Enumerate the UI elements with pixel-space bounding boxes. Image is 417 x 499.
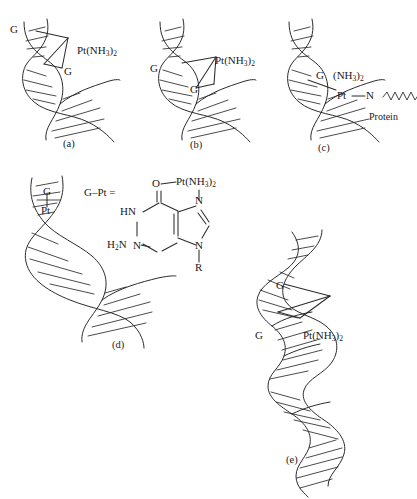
panel-b-g-label-upper: G bbox=[150, 63, 158, 74]
n9-nitrogen-label: N bbox=[195, 240, 203, 251]
n3-nitrogen-label: N bbox=[133, 240, 141, 251]
panel-c-ammine-label: (NH3)2 bbox=[333, 70, 364, 83]
panel-c-platinum-label: Pt bbox=[337, 90, 346, 101]
panel-d-g-label: G bbox=[43, 186, 51, 197]
panel-c-nitrogen-label: N bbox=[366, 90, 374, 101]
panel-e-helix bbox=[257, 230, 345, 497]
n7-nitrogen-label: N bbox=[195, 195, 203, 206]
panel-e-caption: (e) bbox=[286, 455, 298, 466]
panel-a-g-label-lower: G bbox=[64, 66, 72, 77]
panel-e-platinum-label: Pt(NH3)2 bbox=[303, 330, 343, 343]
sugar-substituent-label: R bbox=[195, 262, 202, 273]
amino-group-label: H2N bbox=[107, 239, 127, 252]
panel-a-platinum-label: Pt(NH3)2 bbox=[77, 45, 117, 58]
panel-b-caption: (b) bbox=[190, 140, 202, 151]
panel-c-caption: (c) bbox=[318, 143, 330, 154]
panel-a-g-label-upper: G bbox=[10, 24, 18, 35]
panel-e-g-label-lower: G bbox=[255, 330, 263, 341]
figure-canvas: G G Pt(NH3)2 (a) G G Pt(NH3)2 (b) G (NH3… bbox=[0, 0, 417, 499]
ring-nh-label: HN bbox=[120, 206, 136, 217]
carbonyl-oxygen-label: O bbox=[152, 178, 160, 189]
panel-a-helix bbox=[23, 19, 120, 142]
platinum-ammine-label: Pt(NH3)2 bbox=[176, 176, 216, 189]
panel-a-caption: (a) bbox=[63, 139, 75, 150]
panel-d-helix bbox=[25, 176, 176, 348]
panel-e-g-label-upper: G bbox=[276, 280, 284, 291]
panel-c-g-label: G bbox=[316, 70, 324, 81]
panel-b-helix bbox=[159, 19, 256, 142]
panel-d-platinum-label: Pt bbox=[41, 205, 50, 216]
panel-c-protein-label: Protein bbox=[369, 112, 398, 122]
panel-b-g-label-lower: G bbox=[190, 84, 198, 95]
panel-d-caption: (d) bbox=[112, 340, 124, 351]
g-pt-definition-label: G–Pt = bbox=[84, 187, 116, 198]
panel-b-platinum-label: Pt(NH3)2 bbox=[215, 55, 255, 68]
